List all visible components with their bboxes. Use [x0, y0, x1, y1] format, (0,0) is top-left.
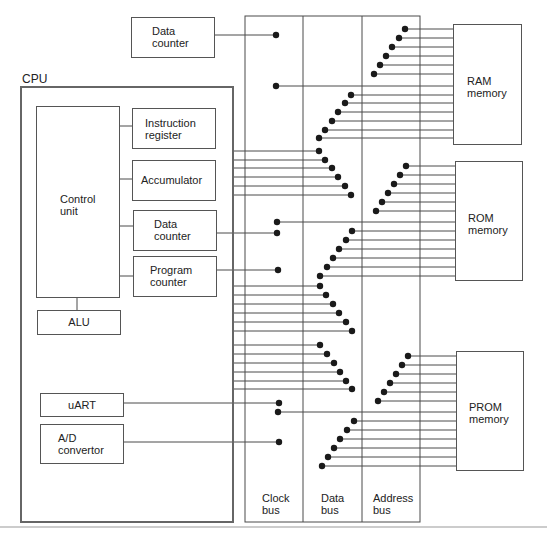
data-counter-label: Data counter	[154, 218, 191, 242]
address-bus-label: Address bus	[373, 492, 413, 516]
control-unit-label: Control unit	[60, 193, 95, 217]
prom-memory-label: PROM memory	[469, 401, 509, 425]
uart-label: uART	[40, 399, 124, 411]
accumulator-label: Accumulator	[141, 174, 202, 186]
ram-memory-label: RAM memory	[467, 75, 507, 99]
data-bus-label: Data bus	[321, 492, 344, 516]
external-data-counter-label: Data counter	[152, 25, 189, 49]
program-counter-label: Program counter	[150, 264, 192, 288]
alu-label: ALU	[37, 316, 121, 328]
cpu-label: CPU	[22, 73, 47, 85]
clock-bus-label: Clock bus	[262, 492, 290, 516]
rom-memory-label: ROM memory	[468, 212, 508, 236]
ad-convertor-label: A/D convertor	[58, 432, 104, 456]
instruction-register-label: Instruction register	[145, 117, 196, 141]
